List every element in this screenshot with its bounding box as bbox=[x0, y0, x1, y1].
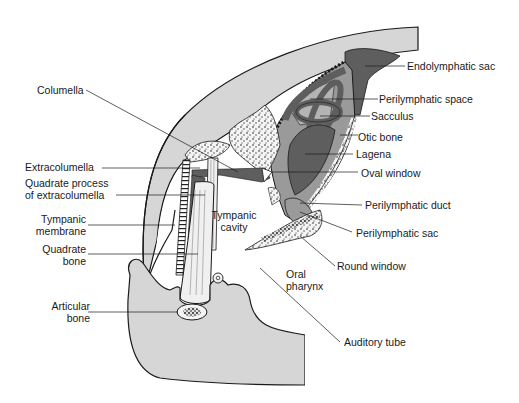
label-oral-pharynx-line1: Oral bbox=[286, 268, 306, 280]
label-sacculus: Sacculus bbox=[371, 110, 414, 122]
label-lagena: Lagena bbox=[356, 148, 391, 160]
label-perilymphatic-sac: Perilymphatic sac bbox=[356, 227, 438, 239]
label-endolymphatic-sac: Endolymphatic sac bbox=[407, 60, 495, 72]
label-tympanic-membrane-line2: membrane bbox=[20, 225, 86, 237]
label-round-window: Round window bbox=[337, 260, 406, 272]
label-extracolumella: Extracolumella bbox=[25, 161, 94, 173]
label-columella: Columella bbox=[37, 84, 84, 96]
ear-anatomy-diagram: Columella Extracolumella Quadrate proces… bbox=[0, 0, 519, 403]
label-quadrate-process-line2: of extracolumella bbox=[25, 189, 104, 201]
nerve-foramen bbox=[213, 273, 223, 283]
label-oval-window: Oval window bbox=[361, 167, 421, 179]
label-quadrate-bone-line1: Quadrate bbox=[20, 243, 86, 255]
label-quadrate-process-line1: Quadrate process bbox=[25, 177, 108, 189]
label-perilymphatic-space: Perilymphatic space bbox=[379, 93, 473, 105]
label-tympanic-membrane-line1: Tympanic bbox=[20, 213, 86, 225]
label-articular-bone-line1: Articular bbox=[20, 300, 90, 312]
label-tympanic-cavity-line2: cavity bbox=[206, 221, 262, 233]
label-tympanic-cavity-line1: Tympanic bbox=[206, 209, 262, 221]
label-articular-bone-line2: bone bbox=[20, 312, 90, 324]
label-oral-pharynx-line2: pharynx bbox=[286, 280, 323, 292]
label-otic-bone: Otic bone bbox=[358, 131, 403, 143]
label-perilymphatic-duct: Perilymphatic duct bbox=[365, 199, 451, 211]
label-quadrate-bone-line2: bone bbox=[20, 255, 86, 267]
label-auditory-tube: Auditory tube bbox=[344, 336, 406, 348]
